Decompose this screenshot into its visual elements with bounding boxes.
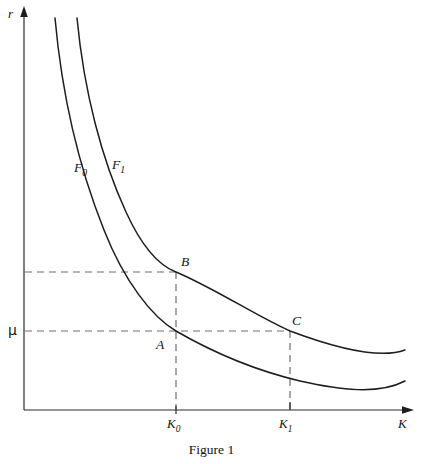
curve-label-f1-subscript: 1 [120, 164, 125, 175]
point-label-b: B [181, 255, 189, 269]
x-tick-label-k0: K0 [167, 417, 180, 434]
x-axis-arrow-icon [402, 406, 414, 414]
x-tick-label-k0-base: K [167, 416, 176, 431]
x-tick-label-k1-base: K [279, 416, 288, 431]
figure-container: r K F0 F1 A B C μ K0 K1 Figure 1 [0, 0, 423, 464]
x-tick-label-k1: K1 [279, 417, 292, 434]
point-label-a: A [156, 338, 164, 352]
point-label-c: C [292, 314, 301, 328]
economics-diagram [0, 0, 423, 464]
curve-f0 [55, 18, 405, 390]
y-tick-label-mu: μ [8, 323, 17, 337]
x-tick-label-k1-subscript: 1 [288, 424, 293, 434]
curve-label-f0-base: F [74, 160, 82, 175]
curve-label-f0: F0 [74, 161, 87, 177]
x-tick-label-k0-subscript: 0 [176, 424, 181, 434]
y-axis-arrow-icon [20, 6, 28, 17]
x-axis-label: K [398, 417, 407, 430]
curve-label-f1-base: F [112, 157, 120, 172]
figure-caption: Figure 1 [0, 442, 423, 458]
curve-label-f0-subscript: 0 [82, 167, 87, 178]
curve-f1 [77, 18, 405, 353]
curve-label-f1: F1 [112, 158, 125, 174]
y-axis-label: r [8, 7, 13, 20]
